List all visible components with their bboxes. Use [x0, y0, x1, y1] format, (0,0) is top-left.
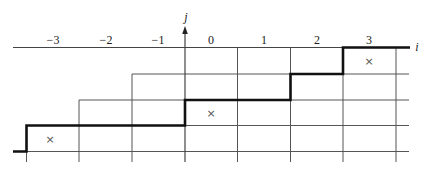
lattice-staircase-diagram: j i −3 −2 −1 0 1 2 3 × × ×	[0, 0, 430, 172]
i-axis-label: i	[415, 40, 418, 54]
cross-mark-icon: ×	[364, 55, 373, 68]
column-label: −3	[47, 33, 60, 47]
column-label: 1	[261, 33, 267, 47]
grid-horizontal-lines	[27, 74, 410, 152]
column-label: 0	[208, 33, 214, 47]
cross-mark-icon: ×	[206, 107, 215, 120]
column-label: 3	[366, 33, 372, 47]
grid-vertical-lines	[27, 48, 397, 163]
cross-mark-icon: ×	[45, 133, 54, 146]
column-labels: −3 −2 −1 0 1 2 3	[47, 33, 372, 47]
j-axis-label: j	[182, 10, 188, 24]
column-label: 2	[314, 33, 320, 47]
j-axis-arrow-icon	[182, 26, 188, 34]
column-label: −2	[100, 33, 113, 47]
column-label: −1	[152, 33, 165, 47]
